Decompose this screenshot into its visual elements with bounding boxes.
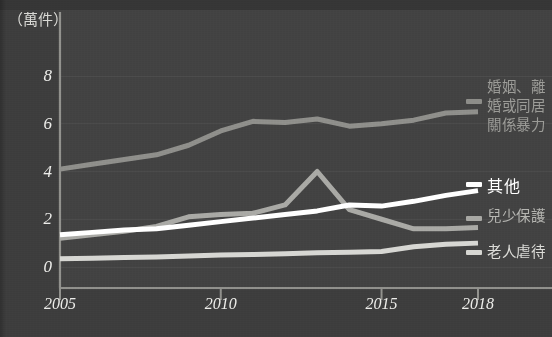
legend-swatch-1	[466, 182, 482, 187]
series-label-child: 兒少保護	[487, 207, 545, 226]
chart-screenshot: （萬件） 02468 婚姻、離 婚或同居 關係暴力 其他 兒少保護 老人虐待 2…	[0, 0, 552, 337]
series-label-elder: 老人虐待	[487, 243, 545, 262]
legend-swatch-3	[466, 250, 482, 255]
legend-swatch-0	[466, 99, 482, 104]
x-axis-tick-label: 2015	[366, 295, 398, 313]
x-axis-tick-label: 2010	[205, 295, 237, 313]
series-line-3	[60, 243, 478, 259]
x-axis-tick-label: 2018	[462, 295, 494, 313]
x-axis-tick-label: 2005	[44, 295, 76, 313]
series-label-marriage-line1: 婚姻、離	[487, 78, 545, 97]
series-label-marriage-line3: 關係暴力	[487, 116, 545, 135]
series-line-0	[60, 112, 478, 169]
series-label-other: 其他	[487, 177, 520, 196]
legend-swatch-2	[466, 216, 482, 221]
line-chart-plot	[0, 0, 552, 337]
series-label-marriage: 婚姻、離 婚或同居 關係暴力	[487, 78, 545, 135]
series-label-marriage-line2: 婚或同居	[487, 97, 545, 116]
